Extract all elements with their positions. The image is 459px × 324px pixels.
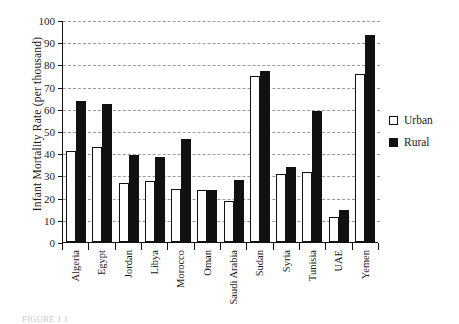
x-axis-label: Algeria [70, 250, 81, 282]
x-axis-tick [115, 243, 116, 250]
x-axis-tick [325, 243, 326, 250]
bar-urban [276, 174, 286, 243]
x-axis-ticks [62, 243, 378, 250]
legend-swatch-urban-icon [389, 116, 398, 125]
bar-urban [66, 151, 76, 242]
bar-rural [76, 101, 86, 242]
y-axis-title: Infant Mortality Rate (per thousand) [31, 4, 43, 244]
bar-group [142, 21, 168, 242]
plot-area: 1009080706050403020100 [62, 21, 378, 243]
y-axis-tick-label: 100 [39, 15, 56, 27]
bar-rural [260, 71, 270, 242]
x-axis-label: Jordan [122, 250, 133, 278]
infant-mortality-bar-chart: Infant Mortality Rate (per thousand) 100… [0, 0, 459, 324]
x-axis-label-cell: Oman [194, 250, 220, 302]
bar-group [89, 21, 115, 242]
x-axis-tick [299, 243, 300, 250]
bar-group [273, 21, 299, 242]
bar-urban [329, 217, 339, 242]
bar-rural [129, 155, 139, 242]
x-axis-label-cell: Saudi Arabia [220, 250, 246, 302]
bar-urban [250, 76, 260, 242]
x-axis-tick [194, 243, 195, 250]
bar-rural [207, 190, 217, 242]
x-axis-tick [167, 243, 168, 250]
bar-group [116, 21, 142, 242]
x-axis-label-cell: Jordan [115, 250, 141, 302]
x-axis-label-cell: Sudan [246, 250, 272, 302]
y-axis-tick-label: 40 [44, 148, 55, 160]
x-axis-label-cell: Tunisia [299, 250, 325, 302]
bar-urban [145, 181, 155, 242]
x-axis-label-cell: Egypt [88, 250, 114, 302]
bar-rural [155, 157, 165, 242]
x-axis-label-cell: Morocco [167, 250, 193, 302]
x-axis-label-cell: Yemen [352, 250, 378, 302]
x-axis-label-cell: UAE [325, 250, 351, 302]
x-axis-tick [378, 243, 379, 250]
x-axis-label-cell: Syria [273, 250, 299, 302]
bar-rural [365, 35, 375, 242]
x-axis-label: Syria [280, 250, 291, 272]
x-axis-label: Oman [201, 250, 212, 276]
bar-urban [355, 74, 365, 242]
legend-item-urban: Urban [389, 114, 433, 126]
figure-caption: FIGURE 1.1 [22, 314, 322, 324]
bar-group [221, 21, 247, 242]
x-axis-label: Yemen [359, 250, 370, 279]
x-axis-tick [352, 243, 353, 250]
bar-urban [224, 201, 234, 242]
bar-group [326, 21, 352, 242]
x-axis-labels: AlgeriaEgyptJordanLibyaMoroccoOmanSaudi … [62, 250, 378, 302]
legend-label-rural: Rural [404, 136, 430, 148]
x-axis-label: Sudan [254, 250, 265, 276]
x-axis-tick [88, 243, 89, 250]
bar-group [352, 21, 378, 242]
bar-urban [92, 147, 102, 242]
bar-urban [302, 172, 312, 242]
bar-group [247, 21, 273, 242]
bar-rural [339, 210, 349, 242]
bar-group [299, 21, 325, 242]
x-axis-label: Egypt [96, 250, 107, 275]
bar-rural [286, 167, 296, 242]
chart-legend: Urban Rural [389, 114, 433, 158]
x-axis-label: Saudi Arabia [228, 250, 239, 305]
legend-label-urban: Urban [404, 114, 433, 126]
x-axis-tick [220, 243, 221, 250]
y-axis-tick-label: 70 [44, 82, 55, 94]
bar-urban [119, 183, 129, 242]
bar-rural [181, 139, 191, 242]
y-axis-tick-label: 90 [44, 37, 55, 49]
x-axis-label: Libya [149, 250, 160, 275]
bar-urban [171, 189, 181, 242]
x-axis-label: UAE [333, 250, 344, 272]
x-axis-tick [62, 243, 63, 250]
x-axis-tick [246, 243, 247, 250]
bar-group [63, 21, 89, 242]
y-axis-tick-label: 50 [44, 126, 55, 138]
legend-item-rural: Rural [389, 136, 433, 148]
bar-series-container [63, 21, 378, 242]
bar-group [194, 21, 220, 242]
x-axis-tick [273, 243, 274, 250]
bar-group [168, 21, 194, 242]
x-axis-label-cell: Libya [141, 250, 167, 302]
bar-rural [234, 180, 244, 242]
y-axis-tick-label: 30 [44, 170, 55, 182]
y-axis-tick-label: 10 [44, 215, 55, 227]
x-axis-label: Tunisia [307, 250, 318, 281]
y-axis-tick-label: 60 [44, 104, 55, 116]
x-axis-label: Morocco [175, 250, 186, 288]
x-axis-tick [141, 243, 142, 250]
y-axis-tick-label: 20 [44, 193, 55, 205]
legend-swatch-rural-icon [389, 138, 398, 147]
x-axis-label-cell: Algeria [62, 250, 88, 302]
bar-rural [312, 111, 322, 242]
y-axis-tick-label: 0 [50, 237, 56, 249]
bar-urban [197, 190, 207, 242]
bar-rural [102, 104, 112, 242]
y-axis-tick-label: 80 [44, 59, 55, 71]
